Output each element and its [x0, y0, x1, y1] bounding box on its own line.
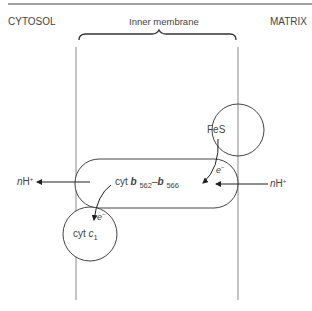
proton-right-label: nH+: [270, 178, 286, 189]
diagram-graphics: [0, 0, 312, 311]
fes-label: FeS: [207, 124, 225, 135]
membrane-brace: [79, 30, 236, 40]
electron-transport-diagram: CYTOSOL Inner membrane MATRIX FeS cyt b …: [0, 0, 312, 311]
cytosol-label: CYTOSOL: [8, 16, 56, 27]
cytc1-label: cyt c1: [73, 228, 98, 242]
electron-label-fes: e−: [216, 164, 225, 175]
electron-label-cytc1: e−: [97, 211, 106, 222]
inner-membrane-label: Inner membrane: [129, 16, 199, 27]
cytb-label: cyt b 562–b 566: [115, 176, 179, 187]
matrix-label: MATRIX: [270, 16, 307, 27]
proton-left-label: nH+: [17, 176, 33, 187]
